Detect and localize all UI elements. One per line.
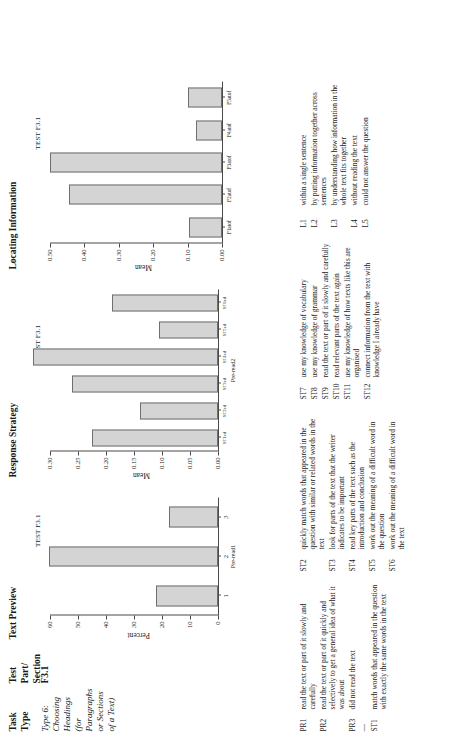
x-tick <box>222 161 225 162</box>
x-tick <box>222 226 225 227</box>
x-tick-label: F4atof <box>226 113 232 145</box>
legend-row: ST5work out the meaning of a difficult w… <box>369 411 387 571</box>
legend-code: PR1 <box>300 709 318 731</box>
chart-text-preview: TEST F3.10102030405060Percent123Pre-read… <box>34 489 244 641</box>
x-tick <box>218 329 221 330</box>
legend-row: ST9read the text or part of it slowly an… <box>322 239 331 399</box>
x-tick <box>222 96 225 97</box>
x-tick <box>222 129 225 130</box>
y-tick <box>218 615 219 619</box>
legend-text: connect information from the text with k… <box>364 239 382 377</box>
legend-text: read key parts of the text such as the i… <box>349 411 367 549</box>
y-axis-title: Mean <box>135 262 152 271</box>
row-task-type: Type 6: Choosing Headings (for Paragraph… <box>40 683 117 731</box>
y-tick-label: 0.20 <box>102 457 109 481</box>
y-tick-label: 0.10 <box>158 457 165 481</box>
legend-row: ST6work out the meaning of a difficult w… <box>389 411 407 571</box>
y-tick <box>134 451 135 455</box>
x-tick-label: 2 <box>222 536 229 575</box>
legend-code: ST9 <box>322 377 331 399</box>
bar <box>33 348 218 365</box>
row-test-part: F3.1 <box>40 643 50 683</box>
y-tick-label: 0.05 <box>186 457 193 481</box>
x-tick-label: ST5ed <box>222 316 227 343</box>
x-tick-label: F3atof <box>226 146 232 178</box>
legend-text: use my knowledge of vocabulary <box>300 239 309 377</box>
y-tick-label: 10 <box>186 621 193 641</box>
legend-code: ST7 <box>300 377 309 399</box>
bar <box>72 375 218 392</box>
y-tick <box>222 243 223 247</box>
x-axis-label: Pre-read1 <box>230 497 236 615</box>
legend-text: by understanding how information in the … <box>331 77 349 205</box>
legend-code: ST12 <box>364 377 382 399</box>
legend-text: by putting information together across s… <box>311 77 329 205</box>
x-tick <box>218 383 221 384</box>
y-axis-title: Percent <box>128 630 151 639</box>
header-text-preview: Text Preview <box>8 549 20 639</box>
header-task-type: Task Type <box>8 685 32 731</box>
legend-text <box>360 581 369 709</box>
bar <box>159 321 218 338</box>
legend-text: read the text or part of it slowly and c… <box>300 581 318 709</box>
legend-text: work out the meaning of a difficult word… <box>369 411 387 549</box>
legend-text: read the text or part of it slowly and c… <box>322 239 331 377</box>
legend-row: PR2read the text or part of it quickly a… <box>320 581 347 731</box>
legend-code: ST8 <box>311 377 320 399</box>
y-tick-label: 0.30 <box>115 249 122 273</box>
legend-text: look for parts of the text that the writ… <box>329 411 347 549</box>
header-test-part: Test Part/ Section <box>8 643 44 683</box>
legend-row: PR3did not read the text <box>349 581 358 731</box>
x-tick <box>218 516 221 517</box>
y-tick <box>190 451 191 455</box>
x-tick-label: ST2ed <box>222 397 227 424</box>
legend-text: did not read the text <box>349 581 358 709</box>
legend-text: quickly match words that appeared in the… <box>300 411 327 549</box>
y-tick <box>78 615 79 619</box>
legend-code: PR3 <box>349 709 358 731</box>
y-tick <box>162 451 163 455</box>
legend-text: within a single sentence <box>300 77 309 205</box>
x-axis-label: Pre-read2 <box>230 289 236 451</box>
legend-text: read the text or part of it quickly and … <box>320 581 347 709</box>
legend-column-2: ST2quickly match words that appeared in … <box>300 411 408 571</box>
legend-row: L4without reading the text <box>351 77 360 227</box>
y-tick-label: 0.25 <box>74 457 81 481</box>
legend-code: ST1 <box>371 709 389 731</box>
legend-row: ST8use my knowledge of grammar <box>311 239 320 399</box>
x-tick <box>218 437 221 438</box>
y-tick-label: 0.40 <box>80 249 87 273</box>
bar <box>196 120 222 140</box>
legend-text: read relevant parts of the text again <box>333 239 342 377</box>
chart-response-strategy: TEST F3.10.000.050.100.150.200.250.30Mea… <box>34 281 244 481</box>
bar <box>156 585 218 605</box>
bar <box>189 217 222 237</box>
x-tick <box>218 410 221 411</box>
legend-code: ST4 <box>349 549 367 571</box>
legend-code: ST5 <box>369 549 387 571</box>
bar <box>112 294 218 311</box>
legend-code: L1 <box>300 205 309 227</box>
y-tick <box>106 615 107 619</box>
legend-row: L1within a single sentence <box>300 77 309 227</box>
y-tick-label: 20 <box>158 621 165 641</box>
x-tick-label: ST6ed <box>222 289 227 316</box>
legend-code: ST3 <box>329 549 347 571</box>
y-tick <box>50 243 51 247</box>
legend-code: L5 <box>362 205 371 227</box>
legend-code: PR2 <box>320 709 347 731</box>
x-tick-label: F1atof <box>226 211 232 243</box>
legend-row: L5could not answer the question <box>362 77 371 227</box>
x-tick <box>222 193 225 194</box>
y-tick-label: 60 <box>46 621 53 641</box>
y-tick-label: 0 <box>214 621 221 641</box>
header-locating-information: Locating Information <box>8 139 20 269</box>
y-tick-label: 0.00 <box>218 249 225 273</box>
x-tick-label: ST1ed <box>222 424 227 451</box>
legend-text: without reading the text <box>351 77 360 205</box>
legend-row: ST3look for parts of the text that the w… <box>329 411 347 571</box>
bar <box>188 87 222 107</box>
y-tick-label: 50 <box>74 621 81 641</box>
legend-code: L2 <box>311 205 329 227</box>
y-tick <box>50 451 51 455</box>
